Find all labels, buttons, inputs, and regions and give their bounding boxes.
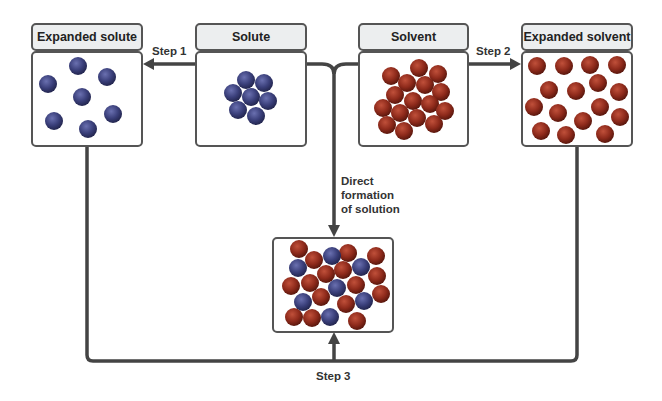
step2-label: Step 2 xyxy=(476,44,511,58)
step1-label: Step 1 xyxy=(152,44,187,58)
solute-box xyxy=(195,51,307,147)
expanded-solute-header: Expanded solute xyxy=(31,23,143,51)
direct-line2: formation xyxy=(341,188,400,202)
solute-title: Solute xyxy=(232,30,270,44)
solvent-box xyxy=(358,51,469,147)
expanded-solute-title: Expanded solute xyxy=(37,30,137,44)
step3-label: Step 3 xyxy=(316,369,351,383)
expanded-solvent-header: Expanded solvent xyxy=(521,23,633,51)
solvent-title: Solvent xyxy=(391,30,436,44)
expanded-solute-box xyxy=(31,51,143,147)
expanded-solvent-box xyxy=(521,51,633,147)
expanded-solvent-title: Expanded solvent xyxy=(524,30,631,44)
solute-header: Solute xyxy=(195,23,307,51)
direct-line1: Direct xyxy=(341,174,400,188)
direct-formation-label: Direct formation of solution xyxy=(341,174,400,216)
solution-box xyxy=(272,237,394,333)
direct-line3: of solution xyxy=(341,202,400,216)
solvent-header: Solvent xyxy=(358,23,469,51)
